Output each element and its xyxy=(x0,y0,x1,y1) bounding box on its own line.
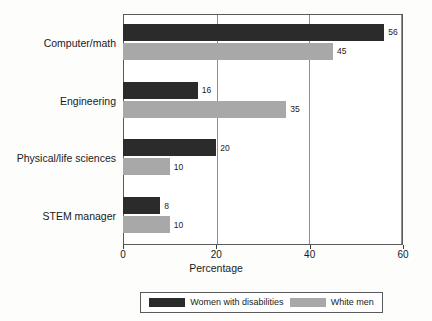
bar-3-0 xyxy=(123,197,160,214)
category-label-0: Computer/math xyxy=(44,38,116,49)
bar-chart-figure: 564516352010810 Computer/mathEngineering… xyxy=(0,0,432,321)
legend-swatch-icon-0 xyxy=(149,298,185,307)
legend-label-1: White men xyxy=(331,298,374,307)
legend-entry-0[interactable]: Women with disabilities xyxy=(149,298,283,307)
bars-layer: 564516352010810 xyxy=(123,14,403,245)
bar-0-1 xyxy=(123,43,333,60)
bar-0-0 xyxy=(123,24,384,41)
category-label-2: Physical/life sciences xyxy=(17,153,116,164)
bar-2-1 xyxy=(123,158,170,175)
category-label-1: Engineering xyxy=(60,96,116,107)
bar-value-label: 56 xyxy=(388,28,397,37)
x-tick-label-20: 20 xyxy=(211,250,222,260)
legend-label-0: Women with disabilities xyxy=(190,298,283,307)
bar-2-0 xyxy=(123,139,216,156)
x-tick-label-0: 0 xyxy=(120,250,126,260)
bar-value-label: 10 xyxy=(174,163,183,172)
legend-entry-1[interactable]: White men xyxy=(290,298,374,307)
x-axis-title: Percentage xyxy=(0,263,432,274)
bar-1-0 xyxy=(123,82,198,99)
legend-swatch-icon-1 xyxy=(290,298,326,307)
bar-value-label: 20 xyxy=(220,144,229,153)
bar-value-label: 8 xyxy=(164,202,169,211)
bar-value-label: 16 xyxy=(202,86,211,95)
bar-value-label: 35 xyxy=(290,105,299,114)
bar-3-1 xyxy=(123,216,170,233)
bar-value-label: 45 xyxy=(337,47,346,56)
bar-1-1 xyxy=(123,101,286,118)
x-tick-label-40: 40 xyxy=(304,250,315,260)
bar-value-label: 10 xyxy=(174,221,183,230)
category-label-3: STEM manager xyxy=(42,211,116,222)
x-tick-label-60: 60 xyxy=(397,250,408,260)
chart-legend: Women with disabilitiesWhite men xyxy=(140,292,383,313)
